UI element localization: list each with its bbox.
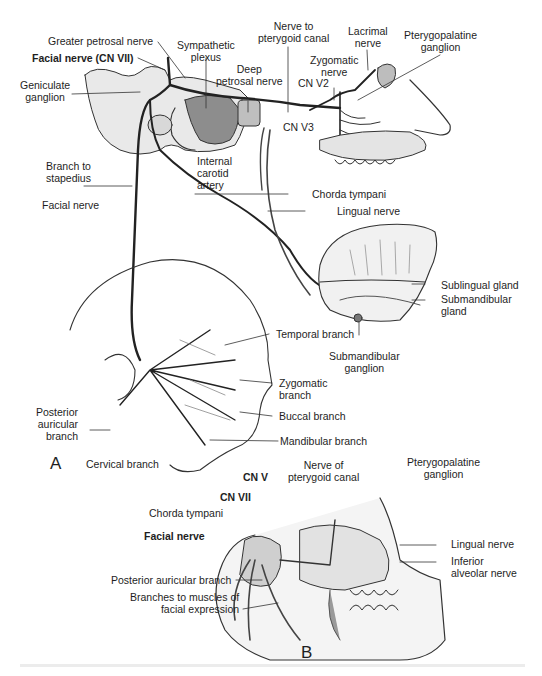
label-greater-petrosal-nerve: Greater petrosal nerve	[48, 35, 153, 47]
label-geniculate-ganglion: Geniculate ganglion	[20, 79, 70, 103]
label-facial-nerve-cn7: Facial nerve (CN VII)	[32, 52, 134, 64]
label-submandibular-ganglion: Submandibular ganglion	[329, 350, 400, 374]
panel-label-a: A	[50, 454, 61, 474]
label-lacrimal-nerve: Lacrimal nerve	[348, 25, 388, 49]
label-zygomatic-branch: Zygomatic branch	[279, 377, 327, 401]
label-buccal-branch: Buccal branch	[279, 410, 346, 422]
label-lingual-nerve-b: Lingual nerve	[451, 538, 514, 550]
caption-strip	[20, 664, 525, 667]
head-profile-illustration	[70, 260, 272, 472]
label-zygomatic-nerve: Zygomatic nerve	[310, 54, 358, 78]
label-facial-nerve-a: Facial nerve	[42, 199, 99, 211]
label-cn-vii: CN VII	[220, 491, 251, 503]
facial-nerve-figure: Greater petrosal nerve Facial nerve (CN …	[0, 0, 542, 676]
label-branch-to-stapedius: Branch to stapedius	[46, 160, 91, 184]
panel-label-b: B	[301, 643, 312, 663]
label-mandibular-branch: Mandibular branch	[280, 435, 367, 447]
label-temporal-branch: Temporal branch	[276, 328, 354, 340]
label-posterior-auricular-branch-b: Posterior auricular branch	[111, 574, 231, 586]
label-internal-carotid-artery: Internal carotid artery	[197, 155, 232, 191]
label-sympathetic-plexus: Sympathetic plexus	[177, 39, 235, 63]
label-chorda-tympani-b: Chorda tympani	[149, 507, 223, 519]
label-lingual-nerve-a: Lingual nerve	[337, 205, 400, 217]
label-cn-v3: CN V3	[283, 121, 314, 133]
label-branches-to-muscles: Branches to muscles of facial expression	[130, 591, 239, 615]
label-nerve-of-pterygoid-canal: Nerve of pterygoid canal	[288, 459, 359, 483]
label-pterygopalatine-ganglion-a: Pterygopalatine ganglion	[404, 29, 477, 53]
label-cervical-branch: Cervical branch	[86, 458, 159, 470]
skull-mandible-illustration	[216, 498, 445, 660]
label-chorda-tympani-a: Chorda tympani	[312, 188, 386, 200]
label-submandibular-gland: Submandibular gland	[441, 293, 512, 317]
label-posterior-auricular-branch-a: Posterior auricular branch	[36, 406, 78, 442]
label-deep-petrosal-nerve: Deep petrosal nerve	[216, 63, 283, 87]
label-cn-v: CN V	[243, 471, 268, 483]
label-nerve-to-pterygoid-canal: Nerve to pterygoid canal	[258, 20, 329, 44]
label-cn-v2: CN V2	[298, 77, 329, 89]
label-pterygopalatine-ganglion-b: Pterygopalatine ganglion	[407, 456, 480, 480]
tongue-gland-illustration	[319, 224, 437, 322]
label-sublingual-gland: Sublingual gland	[441, 279, 519, 291]
label-inferior-alveolar-nerve: Inferior alveolar nerve	[451, 555, 517, 579]
label-facial-nerve-b: Facial nerve	[144, 530, 205, 542]
